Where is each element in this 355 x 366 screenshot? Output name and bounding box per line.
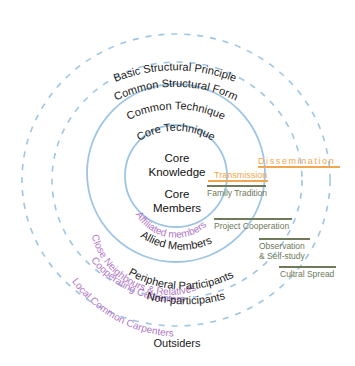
- label-transmission: Transmission: [214, 170, 267, 180]
- label-core-members-2: Members: [153, 202, 201, 214]
- label-dissemination: Dissemination: [258, 156, 335, 166]
- label-outsiders: Outsiders: [153, 337, 201, 349]
- label-cultural-spread: Cultral Spread: [280, 269, 335, 279]
- label-common-technique: Common Technique: [125, 99, 228, 122]
- label-core-knowledge-1: Core: [165, 152, 190, 164]
- label-observation-1: Observation: [259, 241, 305, 251]
- label-project-cooperation: Project Cooperation: [214, 221, 289, 231]
- label-core-knowledge-2: Knowledge: [149, 166, 206, 178]
- label-family-tradition: Family Tradition: [207, 188, 267, 198]
- knowledge-circles-diagram: Basic Structural Principle Common Struct…: [0, 0, 355, 366]
- label-common-structural-form: Common Structural Form: [112, 77, 240, 103]
- label-core-technique: Core Technique: [135, 121, 218, 143]
- label-core-members-1: Core: [165, 188, 190, 200]
- label-observation-2: & Self-study: [259, 251, 306, 261]
